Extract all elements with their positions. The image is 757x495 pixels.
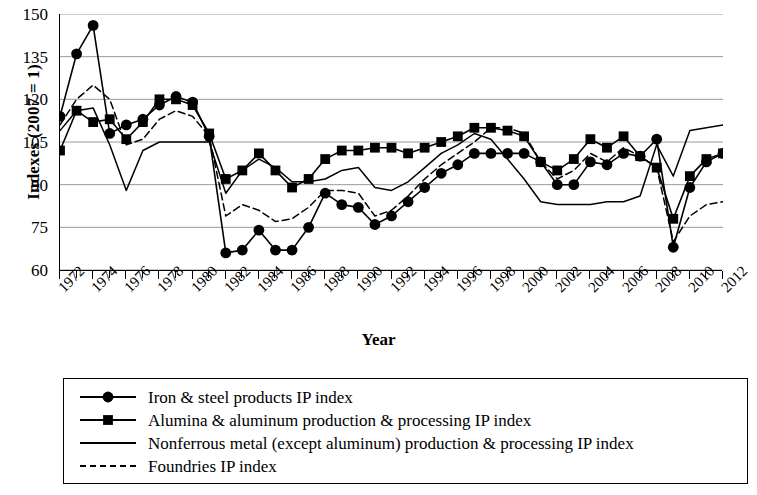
y-axis-tick-label: 135	[8, 49, 48, 66]
data-point-marker	[60, 146, 65, 156]
chart-canvas	[60, 14, 723, 270]
series-line-1	[60, 99, 723, 219]
data-point-marker	[254, 148, 264, 158]
legend-key-icon	[78, 456, 144, 476]
data-point-marker	[436, 137, 446, 147]
data-point-marker	[403, 148, 413, 158]
legend-item: Foundries IP index	[78, 455, 277, 477]
legend-label: Nonferrous metal (except aluminum) produ…	[144, 435, 634, 452]
legend-item: Iron & steel products IP index	[78, 386, 353, 408]
data-point-marker	[337, 146, 347, 156]
chart-figure: Indexes (2007 = 1) 150135120105907560 19…	[0, 0, 757, 495]
data-point-marker	[519, 148, 530, 159]
data-point-marker	[353, 146, 363, 156]
data-point-marker	[486, 148, 497, 159]
y-axis-tick-label: 60	[8, 262, 48, 279]
data-point-marker	[668, 242, 679, 253]
data-point-marker	[469, 123, 479, 133]
data-point-marker	[320, 154, 330, 164]
legend-label: Alumina & aluminum production & processi…	[144, 412, 531, 429]
plot-area	[59, 14, 723, 270]
legend-key-icon	[78, 387, 144, 407]
y-axis-tick-label: 150	[8, 6, 48, 23]
data-point-marker	[568, 179, 579, 190]
data-point-marker	[270, 245, 281, 256]
y-axis-tick-label: 105	[8, 134, 48, 151]
data-point-marker	[552, 166, 562, 176]
data-point-marker	[287, 183, 297, 193]
legend-key-icon	[78, 433, 144, 453]
data-point-marker	[237, 245, 248, 256]
legend-key-icon	[78, 410, 144, 430]
y-axis-tick-label: 120	[8, 91, 48, 108]
data-point-marker	[453, 131, 463, 141]
data-point-marker	[254, 225, 265, 236]
data-point-marker	[452, 159, 463, 170]
data-point-marker	[171, 94, 181, 104]
data-point-marker	[702, 154, 712, 164]
legend-label: Iron & steel products IP index	[144, 389, 353, 406]
data-point-marker	[420, 143, 430, 153]
data-point-marker	[155, 94, 165, 104]
data-point-marker	[386, 211, 397, 222]
data-point-marker	[220, 248, 231, 259]
data-point-marker	[552, 179, 563, 190]
data-point-marker	[336, 199, 347, 210]
data-point-marker	[651, 134, 662, 145]
data-point-marker	[436, 168, 447, 179]
data-point-marker	[569, 154, 579, 164]
data-point-marker	[353, 202, 364, 213]
chart-legend: Iron & steel products IP indexAlumina & …	[63, 378, 748, 484]
data-point-marker	[602, 143, 612, 153]
x-axis-title: Year	[0, 330, 757, 350]
data-point-marker	[204, 129, 214, 139]
data-point-marker	[88, 20, 99, 31]
data-point-marker	[71, 48, 82, 59]
data-point-marker	[387, 143, 397, 153]
data-point-marker	[303, 222, 314, 233]
data-point-marker	[287, 245, 298, 256]
data-point-marker	[668, 214, 678, 224]
legend-item: Nonferrous metal (except aluminum) produ…	[78, 432, 634, 454]
data-point-marker	[419, 182, 430, 193]
data-point-marker	[469, 148, 480, 159]
data-point-marker	[121, 120, 132, 131]
data-point-marker	[586, 134, 596, 144]
data-point-marker	[105, 114, 115, 124]
data-point-marker	[502, 148, 513, 159]
data-point-marker	[718, 148, 723, 158]
data-point-marker	[685, 171, 695, 181]
x-axis-tick-labels: 1972197419761978198019821984198619881990…	[0, 278, 757, 330]
data-point-marker	[619, 131, 629, 141]
y-axis-tick-label: 75	[8, 219, 48, 236]
data-point-marker	[138, 117, 148, 127]
data-point-marker	[88, 117, 98, 127]
y-axis-tick-label: 90	[8, 177, 48, 194]
legend-label: Foundries IP index	[144, 458, 277, 475]
data-point-marker	[370, 143, 380, 153]
data-point-marker	[370, 219, 381, 230]
data-point-marker	[602, 159, 613, 170]
data-point-marker	[403, 196, 414, 207]
legend-item: Alumina & aluminum production & processi…	[78, 409, 531, 431]
y-axis-tick-labels: 150135120105907560	[6, 0, 48, 290]
data-point-marker	[188, 100, 198, 110]
